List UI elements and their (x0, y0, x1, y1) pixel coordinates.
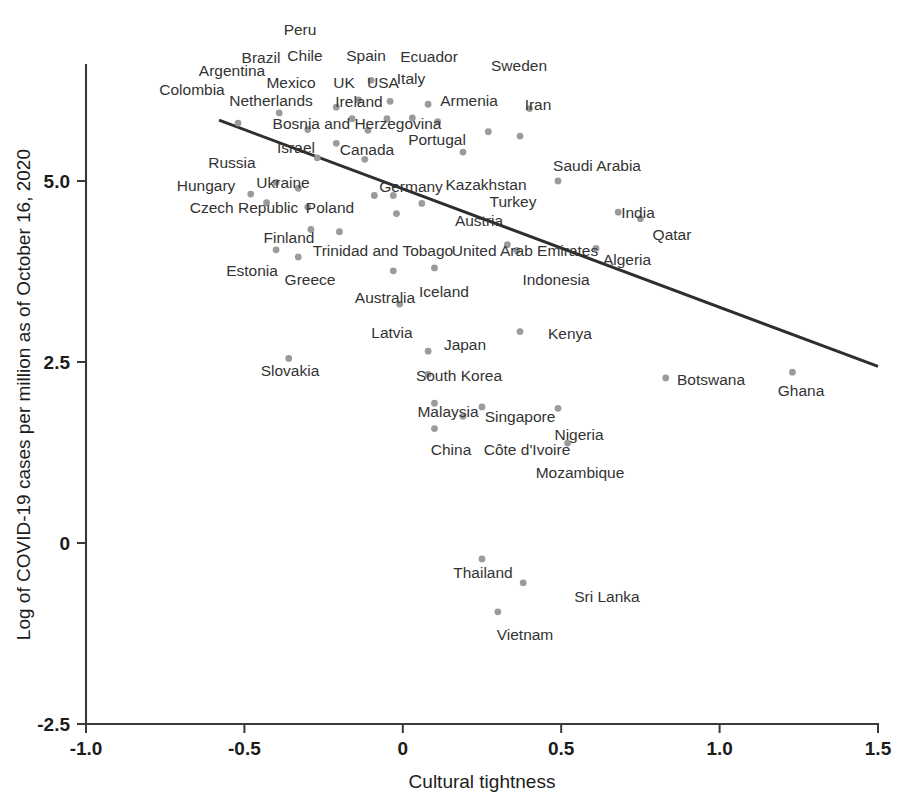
point-label: Mozambique (536, 464, 625, 481)
point-label: China (431, 441, 472, 458)
data-point (333, 140, 340, 147)
data-points (235, 77, 796, 615)
y-axis-title: Log of COVID-19 cases per million as of … (13, 149, 34, 640)
tick-labels: -1.0-0.500.51.01.5-2.502.55.0 (37, 171, 891, 759)
data-point (460, 149, 467, 156)
point-label: Estonia (226, 262, 278, 279)
point-label: Kenya (548, 325, 592, 342)
point-label: Chile (287, 47, 322, 64)
point-label: Kazakhstan (446, 176, 527, 193)
point-label: Austria (455, 212, 504, 229)
point-label: Australia (355, 289, 416, 306)
data-point (247, 191, 254, 198)
point-label: Mexico (266, 74, 315, 91)
data-point (479, 556, 486, 563)
point-label: USA (367, 74, 400, 91)
point-label: Trinidad and Tobago (313, 242, 453, 259)
data-point (425, 101, 432, 108)
data-point (789, 369, 796, 376)
point-label: Russia (208, 154, 256, 171)
point-label: Argentina (199, 62, 266, 79)
point-label: Czech Republic (190, 199, 299, 216)
point-label: Latvia (371, 324, 413, 341)
point-label: Greece (285, 271, 336, 288)
point-label: Italy (397, 70, 426, 87)
point-label: Ireland (335, 93, 382, 110)
data-point (517, 133, 524, 140)
point-label: Bosnia and Herzegovina (273, 115, 442, 132)
point-label: Turkey (490, 193, 537, 210)
point-label: Spain (346, 47, 386, 64)
x-tick-label: 0 (398, 738, 409, 759)
point-label: Indonesia (522, 271, 590, 288)
data-point (393, 210, 400, 217)
point-label: Armenia (440, 92, 498, 109)
point-labels: PeruChileSpainEcuadorBrazilSwedenArgenti… (159, 21, 824, 643)
point-label: Slovakia (261, 362, 320, 379)
point-label: Thailand (453, 564, 512, 581)
point-label: Peru (284, 21, 317, 38)
data-point (336, 228, 343, 235)
x-tick-label: 1.0 (706, 738, 732, 759)
point-label: Malaysia (417, 403, 479, 420)
point-label: Sri Lanka (574, 588, 640, 605)
point-label: Finland (264, 229, 315, 246)
point-label: Ecuador (400, 48, 458, 65)
point-label: India (621, 204, 655, 221)
y-tick-label: 2.5 (44, 352, 71, 373)
y-tick-label: -2.5 (37, 714, 70, 735)
point-label: Japan (444, 336, 486, 353)
data-point (431, 264, 438, 271)
data-point (425, 348, 432, 355)
data-point (285, 355, 292, 362)
data-point (485, 128, 492, 135)
x-tick-label: 0.5 (548, 738, 575, 759)
point-label: Singapore (485, 408, 556, 425)
data-point (494, 608, 501, 615)
data-point (418, 200, 425, 207)
point-label: Botswana (677, 371, 745, 388)
data-point (555, 178, 562, 185)
x-tick-label: 1.5 (865, 738, 892, 759)
y-tick-label: 5.0 (44, 171, 70, 192)
point-label: Iceland (419, 283, 469, 300)
point-label: Portugal (408, 131, 466, 148)
data-point (520, 579, 527, 586)
data-point (273, 246, 280, 253)
point-label: South Korea (416, 367, 503, 384)
scatter-plot-svg: PeruChileSpainEcuadorBrazilSwedenArgenti… (0, 0, 910, 799)
point-label: Germany (379, 178, 443, 195)
data-point (371, 192, 378, 199)
x-tick-label: -1.0 (70, 738, 103, 759)
point-label: Ukraine (256, 174, 309, 191)
scatter-chart-figure: PeruChileSpainEcuadorBrazilSwedenArgenti… (0, 0, 910, 799)
point-label: Netherlands (229, 92, 313, 109)
x-axis-title: Cultural tightness (409, 771, 556, 792)
point-label: Colombia (159, 81, 225, 98)
point-label: Israel (277, 139, 315, 156)
axes (77, 65, 878, 733)
data-point (662, 375, 669, 382)
point-label: Poland (306, 199, 354, 216)
point-label: Canada (340, 141, 395, 158)
point-label: Algeria (603, 251, 652, 268)
point-label: Saudi Arabia (553, 157, 641, 174)
data-point (517, 328, 524, 335)
point-label: United Arab Emirates (452, 242, 599, 259)
data-point (235, 120, 242, 127)
point-label: UK (333, 74, 355, 91)
data-point (555, 405, 562, 412)
data-point (390, 267, 397, 274)
data-point (431, 425, 438, 432)
point-label: Qatar (653, 226, 692, 243)
point-label: Hungary (177, 177, 236, 194)
point-label: Vietnam (497, 626, 554, 643)
y-tick-label: 0 (59, 533, 70, 554)
point-label: Côte d'Ivoire (484, 441, 571, 458)
point-label: Iran (525, 96, 552, 113)
point-label: Sweden (491, 57, 547, 74)
point-label: Ghana (778, 382, 825, 399)
x-tick-label: -0.5 (228, 738, 261, 759)
data-point (387, 98, 394, 105)
data-point (295, 254, 302, 261)
